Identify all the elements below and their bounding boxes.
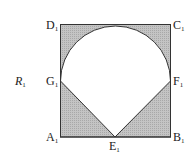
label-G: G1: [46, 74, 59, 89]
label-A: A1: [46, 130, 59, 145]
label-B: B1: [173, 130, 185, 145]
label-E: E1: [109, 139, 120, 154]
label-D: D1: [46, 18, 59, 33]
label-C: C1: [173, 18, 185, 33]
figure-name: R1: [14, 74, 26, 89]
label-F: F1: [173, 74, 184, 89]
geometry-figure: D1 C1 G1 F1 A1 B1 E1 R1: [0, 0, 195, 155]
